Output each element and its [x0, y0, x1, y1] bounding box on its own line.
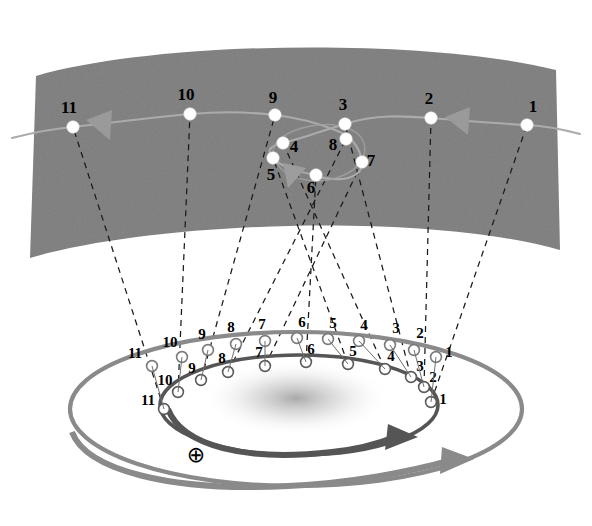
- outer-node-label-9: 9: [198, 326, 206, 342]
- retrograde-motion-diagram: 1234567891011 1234567891011 123456789101…: [0, 0, 592, 526]
- orbit-connector-5: [328, 339, 348, 364]
- sky-position-dot-5: [267, 152, 279, 164]
- outer-node-label-4: 4: [360, 317, 368, 333]
- outer-node-label-7: 7: [258, 316, 266, 332]
- outer-node-label-2: 2: [416, 325, 424, 341]
- sky-position-dot-11: [67, 121, 79, 133]
- sky-position-dot-8: [340, 133, 352, 145]
- outer-node-label-11: 11: [128, 345, 142, 361]
- sky-position-label-6: 6: [307, 178, 316, 197]
- earth-arrow-head: [385, 424, 418, 450]
- sky-position-label-4: 4: [290, 137, 299, 156]
- outer-node-label-10: 10: [163, 334, 178, 350]
- inner-node-label-8: 8: [218, 350, 226, 366]
- sky-position-dot-9: [269, 109, 281, 121]
- sky-position-label-8: 8: [329, 135, 338, 154]
- sky-position-label-2: 2: [425, 89, 434, 108]
- inner-node-label-1: 1: [439, 391, 447, 407]
- outer-node-label-3: 3: [392, 320, 400, 336]
- inner-node-label-11: 11: [141, 392, 155, 408]
- inner-node-label-10: 10: [158, 372, 173, 388]
- sky-position-label-9: 9: [269, 88, 278, 107]
- sky-position-dot-3: [339, 118, 351, 130]
- inner-node-label-6: 6: [307, 341, 315, 357]
- sky-position-dot-2: [425, 112, 437, 124]
- sky-position-label-10: 10: [178, 85, 195, 104]
- inner-node-label-9: 9: [188, 360, 196, 376]
- inner-node-label-5: 5: [349, 343, 357, 359]
- sky-position-label-5: 5: [267, 165, 276, 184]
- sky-position-dot-4: [277, 137, 289, 149]
- diagram-canvas: 1234567891011 1234567891011 123456789101…: [0, 0, 592, 526]
- sky-position-label-11: 11: [61, 98, 77, 117]
- outer-node-label-5: 5: [329, 315, 337, 331]
- outer-node-label-6: 6: [298, 314, 306, 330]
- sky-position-dot-10: [184, 108, 196, 120]
- sky-position-label-3: 3: [339, 95, 348, 114]
- sky-position-dot-1: [521, 119, 533, 131]
- sky-position-label-7: 7: [367, 151, 376, 170]
- outer-node-label-1: 1: [445, 344, 453, 360]
- sky-position-label-1: 1: [529, 97, 538, 116]
- inner-node-label-7: 7: [255, 344, 263, 360]
- orbit-connector-4: [359, 341, 385, 369]
- planet-arrow-head: [440, 447, 474, 474]
- earth-symbol: ⊕: [187, 442, 205, 467]
- outer-node-label-8: 8: [227, 319, 235, 335]
